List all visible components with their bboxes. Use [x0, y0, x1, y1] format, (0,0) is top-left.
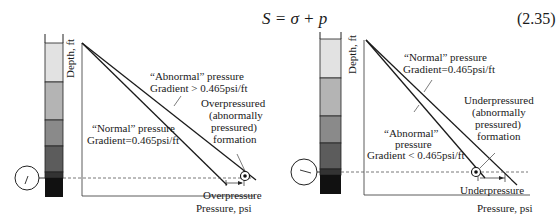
normal-gradient-line-left: [82, 43, 227, 185]
abnormal-gradient-label-left: Gradient > 0.465psi/ft: [150, 82, 248, 94]
right-panel: Depth, ft Pressure, psi “Normal” pressur…: [291, 32, 534, 214]
formation-label-right-1: Underpressured: [464, 94, 534, 106]
normal-gradient-label-left: Gradient=0.465psi/ft: [87, 134, 179, 146]
equation-number: (2.35): [517, 10, 556, 28]
strata-column-left: [45, 34, 63, 197]
formation-label-left-4: formation: [213, 133, 257, 145]
y-axis-label-left: Depth, ft: [64, 39, 76, 78]
equation: S = σ + p: [262, 9, 327, 28]
pressure-gauge-icon-right: [291, 159, 320, 185]
x-axis-label-right: Pressure, psi: [477, 202, 533, 214]
pressure-gauge-icon: [15, 166, 45, 190]
abnormal-pressure-label-left: “Abnormal” pressure: [150, 70, 244, 82]
formation-label-left-1: Overpressured: [201, 97, 266, 109]
abnormal-gradient-label-right: Gradient < 0.465psi/ft: [367, 149, 465, 161]
strata-column-right: [320, 32, 341, 194]
underpressure-label: Underpressure: [460, 184, 524, 196]
overpressure-label: Overpressure: [203, 189, 262, 201]
normal-pressure-label-left: “Normal” pressure: [92, 122, 175, 134]
x-axis-label-left: Pressure, psi: [196, 202, 252, 214]
y-axis-label-right: Depth, ft: [346, 35, 358, 74]
normal-pressure-label-right: “Normal” pressure: [404, 51, 487, 63]
normal-gradient-label-right: Gradient=0.465psi/ft: [403, 63, 495, 75]
formation-label-right-4: formation: [477, 130, 521, 142]
pressure-gradient-figure: S = σ + p (2.35) Depth, ft Pressure, psi: [0, 0, 558, 222]
left-panel: Depth, ft Pressure, psi “Abnormal” press…: [15, 34, 266, 214]
